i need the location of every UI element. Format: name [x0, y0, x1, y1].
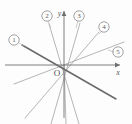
tag-5-label: 5: [116, 48, 120, 56]
line-4: [25, 32, 99, 118]
tag-4-label: 4: [102, 23, 106, 31]
tag-3[interactable]: 3: [74, 11, 84, 21]
x-axis-label: x: [115, 68, 120, 77]
tag-2[interactable]: 2: [42, 11, 52, 21]
tag-4[interactable]: 4: [99, 22, 109, 32]
y-axis-label: y: [57, 9, 62, 18]
tag-5[interactable]: 5: [113, 47, 123, 57]
tag-2-label: 2: [45, 12, 49, 20]
tag-1[interactable]: 1: [9, 35, 19, 45]
tag-1-label: 1: [12, 36, 16, 44]
coordinate-figure: 1 2 3 4 5 y x O: [0, 0, 132, 124]
callout-leaders: [19, 21, 114, 52]
origin-label: O: [54, 68, 61, 78]
tag-3-label: 3: [77, 12, 81, 20]
y-axis-arrow-icon: [62, 11, 67, 16]
coordinate-plane-svg: 1 2 3 4 5 y x O: [0, 0, 132, 124]
x-axis-arrow-icon: [115, 63, 120, 68]
ray-group: [14, 23, 124, 124]
line-5: [14, 42, 124, 84]
leader-3: [76, 21, 78, 28]
